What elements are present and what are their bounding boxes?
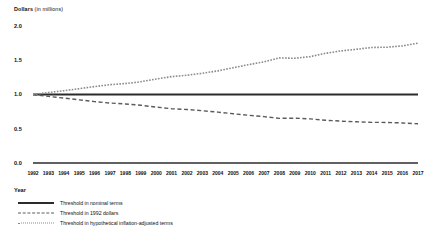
legend-label: Threshold in hypothetical inflation-adju… <box>60 220 173 227</box>
series-line-dashed <box>33 95 418 124</box>
legend-swatch-dotted-icon <box>18 220 54 227</box>
x-axis-title: Year <box>14 187 26 193</box>
legend-swatch-dashed-icon <box>18 210 54 217</box>
series-line-dotted <box>33 43 418 94</box>
legend-label: Threshold in nominal terms <box>60 200 123 207</box>
legend-label: Threshold in 1992 dollars <box>60 210 118 217</box>
legend-item: Threshold in 1992 dollars <box>18 208 258 218</box>
legend-swatch-solid-icon <box>18 200 54 207</box>
legend-item: Threshold in nominal terms <box>18 198 258 208</box>
chart-legend: Threshold in nominal termsThreshold in 1… <box>18 198 258 228</box>
legend-item: Threshold in hypothetical inflation-adju… <box>18 218 258 228</box>
chart-figure: Dollars (in millions) 0.00.51.01.52.0 19… <box>0 0 428 235</box>
